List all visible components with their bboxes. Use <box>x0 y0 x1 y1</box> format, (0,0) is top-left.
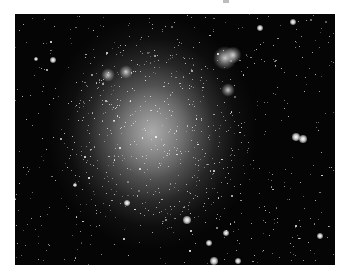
star <box>134 209 136 211</box>
star <box>75 106 76 107</box>
star <box>142 129 143 130</box>
star <box>103 203 104 204</box>
star <box>177 39 178 40</box>
star <box>224 67 225 68</box>
star <box>277 218 278 219</box>
star <box>78 181 79 182</box>
star <box>217 60 218 61</box>
star <box>25 245 26 246</box>
star <box>265 210 266 211</box>
star <box>315 200 316 201</box>
star <box>280 25 281 26</box>
star <box>268 16 269 17</box>
star <box>93 191 94 192</box>
star <box>154 55 156 57</box>
star <box>117 105 118 106</box>
star <box>149 18 150 19</box>
star <box>253 168 254 169</box>
star <box>290 188 291 189</box>
star <box>316 127 317 128</box>
star <box>331 167 332 168</box>
star <box>182 88 183 89</box>
star <box>274 219 275 220</box>
star <box>162 223 163 224</box>
star <box>160 165 161 166</box>
star <box>196 185 197 186</box>
bright-star <box>210 257 218 265</box>
star <box>77 16 78 17</box>
star <box>259 207 260 208</box>
star <box>239 243 240 244</box>
star <box>271 186 273 188</box>
star <box>274 61 276 63</box>
star <box>70 38 71 39</box>
star <box>112 178 113 179</box>
star <box>208 198 209 199</box>
star <box>79 16 80 17</box>
bright-star <box>206 240 212 246</box>
star <box>128 195 129 196</box>
star <box>114 42 115 43</box>
star <box>119 86 120 87</box>
star <box>144 96 146 98</box>
star <box>194 175 195 176</box>
star <box>27 167 28 168</box>
star <box>208 137 209 138</box>
star <box>272 189 274 191</box>
star <box>108 72 109 73</box>
star <box>92 176 93 177</box>
star <box>94 57 95 58</box>
bright-star <box>50 57 56 63</box>
star <box>244 173 245 174</box>
bright-star <box>299 135 307 143</box>
star <box>112 109 113 110</box>
star <box>205 210 206 211</box>
star <box>196 115 197 116</box>
star <box>195 158 196 159</box>
star <box>211 204 212 205</box>
star <box>217 105 218 106</box>
star <box>111 133 112 134</box>
star <box>306 84 307 85</box>
star <box>99 82 100 83</box>
star <box>76 105 77 106</box>
star <box>325 113 326 114</box>
star <box>30 198 31 199</box>
star <box>209 135 210 136</box>
star <box>71 170 72 171</box>
star <box>147 120 148 121</box>
star <box>111 104 112 105</box>
star <box>277 87 278 88</box>
star <box>264 206 265 207</box>
star <box>188 151 189 152</box>
star <box>103 90 104 91</box>
star <box>319 47 320 48</box>
star <box>80 100 81 101</box>
star <box>313 165 314 166</box>
star <box>292 157 294 159</box>
star <box>193 65 194 66</box>
star <box>313 15 314 16</box>
star <box>241 200 242 201</box>
star <box>124 126 125 127</box>
star <box>23 24 24 25</box>
star <box>90 225 91 226</box>
nebula-knot <box>211 44 239 72</box>
star <box>244 122 245 123</box>
star <box>198 170 199 171</box>
star <box>94 118 95 119</box>
star <box>256 49 258 51</box>
star <box>297 235 298 236</box>
star <box>259 193 260 194</box>
star <box>122 196 123 197</box>
star <box>219 142 220 143</box>
top-marker <box>223 0 229 3</box>
star <box>193 101 194 102</box>
star <box>131 125 132 126</box>
star <box>82 221 84 223</box>
star <box>230 179 231 180</box>
star <box>218 197 220 199</box>
star <box>300 182 301 183</box>
star <box>84 156 86 158</box>
star <box>32 125 33 126</box>
